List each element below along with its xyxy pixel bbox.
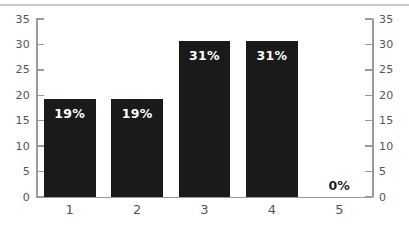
bar-slot[interactable]: 31% <box>246 19 298 197</box>
x-axis-tick-label: 1 <box>50 203 90 216</box>
bar-slot[interactable]: 0% <box>313 19 365 197</box>
bar-value-label: 0% <box>313 178 365 193</box>
x-axis-tick-label: 5 <box>319 203 359 216</box>
bar-slot[interactable]: 19% <box>44 19 96 197</box>
x-axis-tick-label: 2 <box>117 203 157 216</box>
bar-chart: 35302520151050 35302520151050 19%19%31%3… <box>0 0 409 229</box>
left-axis-tick-label: 10 <box>16 141 30 152</box>
right-axis-tick-label: 15 <box>379 115 393 126</box>
bars-layer: 19%19%31%31%0% <box>36 19 373 197</box>
x-axis-tick-label: 4 <box>252 203 292 216</box>
left-axis-tick-label: 30 <box>16 39 30 50</box>
right-axis-tick-label: 0 <box>379 192 386 203</box>
left-axis-tick-label: 25 <box>16 64 30 75</box>
bar-slot[interactable]: 19% <box>111 19 163 197</box>
left-axis-tick-label: 15 <box>16 115 30 126</box>
bar[interactable] <box>246 41 298 197</box>
right-axis-tick-label: 30 <box>379 39 393 50</box>
x-axis-tick-label: 3 <box>185 203 225 216</box>
bar-value-label: 31% <box>179 48 231 63</box>
left-axis-tick-label: 20 <box>16 90 30 101</box>
right-axis-tick-label: 35 <box>379 14 393 25</box>
bar-value-label: 19% <box>111 106 163 121</box>
right-axis-tick-label: 5 <box>379 166 386 177</box>
top-divider-rule <box>0 4 409 6</box>
bar[interactable] <box>179 41 231 197</box>
left-axis-tick-label: 5 <box>23 166 30 177</box>
left-axis-tick-label: 35 <box>16 14 30 25</box>
right-axis-tick-label: 20 <box>379 90 393 101</box>
right-axis-tick-label: 10 <box>379 141 393 152</box>
left-axis-tick-label: 0 <box>23 192 30 203</box>
bar-slot[interactable]: 31% <box>179 19 231 197</box>
bar-value-label: 19% <box>44 106 96 121</box>
bar-value-label: 31% <box>246 48 298 63</box>
right-axis-tick-label: 25 <box>379 64 393 75</box>
